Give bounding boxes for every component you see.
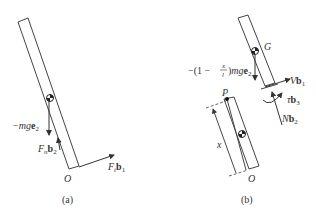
x-label: x	[216, 139, 222, 150]
weight-label-b: −(1 −	[188, 65, 210, 77]
svg-text:)mge2: )mge2	[228, 65, 252, 78]
g-label: G	[264, 41, 271, 52]
weight-label-a: −mge2	[12, 120, 39, 133]
svg-text:l: l	[222, 71, 224, 79]
panel-a: −mge2 Fnb2 Ftb1 O (a)	[12, 18, 126, 206]
pivot-label-a: O	[64, 173, 71, 184]
center-of-mass-icon	[239, 131, 246, 138]
pivot-label-b: O	[248, 173, 255, 184]
caption-a: (a)	[62, 194, 73, 206]
shear-force-label: Vb1	[290, 75, 306, 88]
p-label: P	[221, 87, 228, 98]
shear-force-arrow	[265, 79, 290, 87]
svg-text:x: x	[221, 62, 226, 70]
center-of-mass-icon	[252, 48, 259, 55]
torque-label: τb3	[287, 94, 300, 107]
normal-force-label-a: Fnb2	[37, 143, 57, 156]
caption-b: (b)	[241, 194, 253, 206]
axial-force-arrow	[272, 92, 282, 125]
panel-b: G −(1 − x l )mge2 Vb1 τb3 Nb2 P	[188, 15, 306, 206]
free-body-diagram: −mge2 Fnb2 Ftb1 O (a) G −(1 − x l	[0, 0, 316, 214]
axial-force-label: Nb2	[281, 113, 298, 126]
center-of-mass-icon	[47, 95, 54, 102]
tangential-force-label-a: Ftb1	[107, 161, 126, 174]
